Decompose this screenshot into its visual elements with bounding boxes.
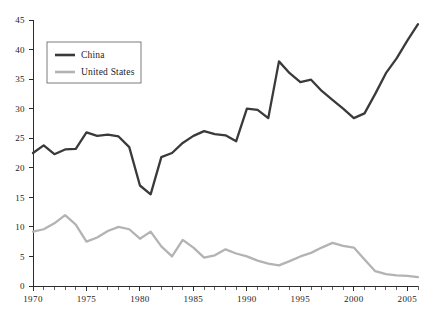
- x-tick-label: 2005: [398, 294, 418, 304]
- x-tick-label: 1990: [237, 294, 257, 304]
- y-tick-label: 5: [20, 252, 25, 262]
- legend-label-china: China: [81, 50, 105, 60]
- x-axis-ticks: 19701975198019851990199520002005: [23, 286, 418, 304]
- y-tick-label: 45: [15, 15, 25, 25]
- x-tick-label: 1975: [77, 294, 97, 304]
- series-line-united-states: [33, 215, 418, 277]
- y-axis-ticks: 051015202530354045: [15, 15, 33, 291]
- y-tick-label: 25: [15, 133, 25, 143]
- y-tick-label: 20: [15, 163, 25, 173]
- y-tick-label: 30: [15, 104, 25, 114]
- y-tick-label: 10: [15, 222, 25, 232]
- x-tick-label: 1970: [23, 294, 43, 304]
- x-tick-label: 1985: [184, 294, 204, 304]
- legend-label-united-states: United States: [81, 67, 135, 77]
- x-tick-label: 2000: [344, 294, 364, 304]
- line-chart: 051015202530354045 197019751980198519901…: [0, 0, 430, 314]
- y-tick-label: 15: [15, 193, 25, 203]
- chart-canvas: 051015202530354045 197019751980198519901…: [0, 0, 430, 314]
- y-tick-label: 0: [20, 281, 25, 291]
- x-tick-label: 1995: [291, 294, 311, 304]
- x-tick-label: 1980: [130, 294, 150, 304]
- y-tick-label: 40: [15, 45, 25, 55]
- y-tick-label: 35: [15, 74, 25, 84]
- chart-legend: ChinaUnited States: [47, 42, 141, 83]
